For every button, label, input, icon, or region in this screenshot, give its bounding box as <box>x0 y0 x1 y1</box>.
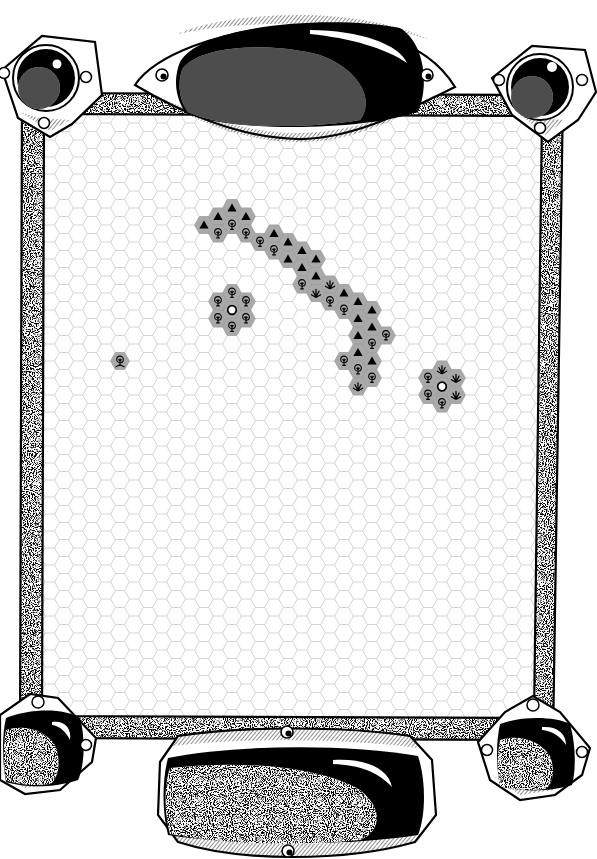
rivet <box>577 75 588 86</box>
highlight <box>547 62 557 72</box>
rivet <box>577 747 588 758</box>
rivet <box>0 68 10 79</box>
rivet <box>81 72 92 83</box>
rivet <box>39 118 50 129</box>
rivet <box>494 75 505 86</box>
hex-grid[interactable] <box>30 100 560 730</box>
highlight <box>53 60 62 69</box>
rivet <box>81 740 92 751</box>
town-icon <box>438 382 447 391</box>
rivet <box>482 745 493 756</box>
bottom-plate <box>158 726 436 857</box>
rivet <box>32 696 44 708</box>
town-icon <box>228 306 237 315</box>
game-board <box>0 0 597 859</box>
rivet <box>535 123 546 134</box>
rivet <box>527 699 539 711</box>
hex-field <box>30 100 560 730</box>
